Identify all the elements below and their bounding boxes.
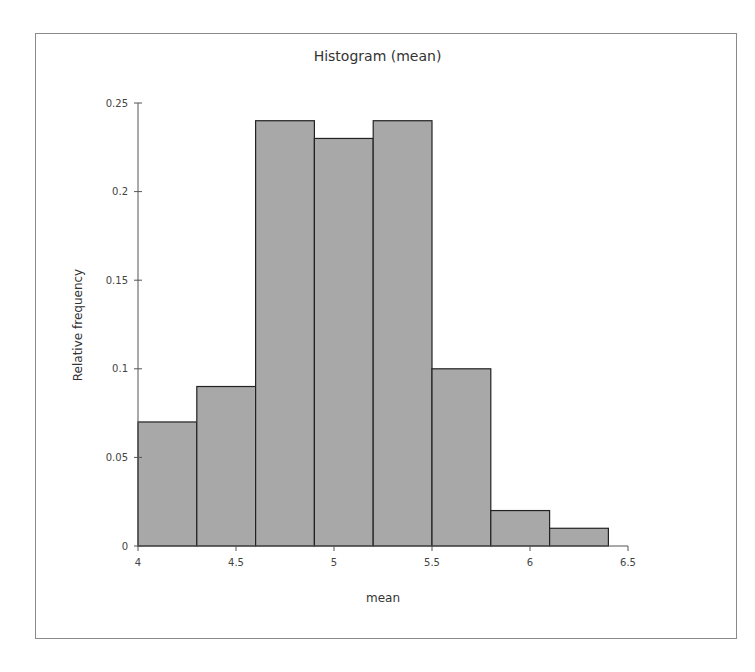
x-tick-label: 4.5 xyxy=(228,557,244,568)
histogram-bar xyxy=(314,138,373,546)
x-tick-label: 5.5 xyxy=(424,557,440,568)
y-tick-label: 0.15 xyxy=(106,275,128,286)
x-tick-label: 4 xyxy=(135,557,141,568)
histogram-bar xyxy=(432,369,491,546)
x-tick-label: 6 xyxy=(527,557,533,568)
histogram-bar xyxy=(197,387,256,546)
x-tick-label: 6.5 xyxy=(620,557,636,568)
y-tick-label: 0.05 xyxy=(106,452,128,463)
x-tick-label: 5 xyxy=(331,557,337,568)
histogram-bar xyxy=(138,422,197,546)
y-tick-label: 0.1 xyxy=(112,363,128,374)
y-tick-label: 0.25 xyxy=(106,98,128,109)
histogram-bar xyxy=(256,121,315,546)
histogram-plot: 00.050.10.150.20.2544.555.566.5 xyxy=(0,0,755,672)
histogram-bar xyxy=(550,528,609,546)
histogram-bar xyxy=(373,121,432,546)
histogram-bar xyxy=(491,511,550,546)
y-tick-label: 0 xyxy=(122,541,128,552)
y-tick-label: 0.2 xyxy=(112,186,128,197)
